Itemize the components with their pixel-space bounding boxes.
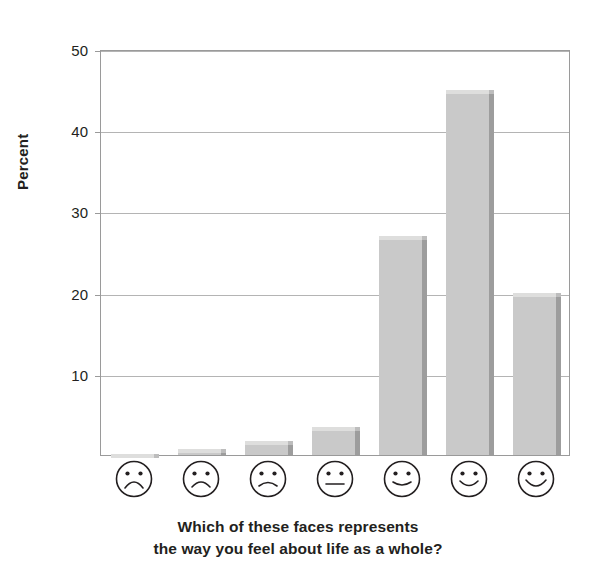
y-axis-tick-20: 20: [48, 286, 88, 301]
bar-slightly-happy-face: [379, 236, 427, 455]
y-axis-tick-labels: 5040302010: [40, 0, 88, 576]
bar-sad-face: [178, 449, 226, 455]
bar-side-face: [422, 236, 427, 455]
caption-line-1: Which of these faces represents: [0, 516, 596, 538]
gridline-30: [101, 213, 569, 214]
bar-top-face: [312, 427, 360, 431]
bar-very-sad-face: [111, 454, 159, 455]
bar-top-face: [245, 441, 293, 445]
bar-bevel: [422, 236, 427, 240]
bar-happy-face: [446, 90, 494, 455]
gridline-50: [101, 51, 569, 52]
bar-side-face: [556, 293, 561, 455]
x-axis-face-icons: [100, 458, 570, 504]
bar-bevel: [556, 293, 561, 297]
bar-side-face: [355, 427, 360, 455]
bar-very-happy-face: [513, 293, 561, 455]
sad-face-icon: [180, 458, 222, 500]
bar-chart-figure: Percent 5040302010 Which of these faces …: [0, 0, 596, 576]
very-happy-face-icon: [515, 458, 557, 500]
bar-bevel: [355, 427, 360, 431]
y-tick-mark-30: [95, 213, 101, 214]
neutral-face-icon: [314, 458, 356, 500]
bar-top-face: [178, 449, 226, 453]
y-axis-tick-40: 40: [48, 124, 88, 139]
y-axis-tick-10: 10: [48, 367, 88, 382]
y-axis-title: Percent: [14, 70, 31, 190]
chart-caption: Which of these faces represents the way …: [0, 516, 596, 561]
plot-area: [100, 50, 570, 456]
bar-top-face: [513, 293, 561, 297]
slightly-sad-face-icon: [247, 458, 289, 500]
y-tick-mark-40: [95, 132, 101, 133]
y-axis-tick-50: 50: [48, 43, 88, 58]
happy-face-icon: [448, 458, 490, 500]
bar-side-face: [489, 90, 494, 455]
gridline-10: [101, 376, 569, 377]
bar-bevel: [489, 90, 494, 94]
gridline-40: [101, 132, 569, 133]
very-sad-face-icon: [113, 458, 155, 500]
bar-top-face: [379, 236, 427, 240]
bar-top-face: [446, 90, 494, 94]
y-tick-mark-10: [95, 376, 101, 377]
gridline-20: [101, 295, 569, 296]
y-axis-tick-30: 30: [48, 205, 88, 220]
y-tick-mark-50: [95, 51, 101, 52]
bar-neutral-face: [312, 427, 360, 455]
caption-line-2: the way you feel about life as a whole?: [0, 538, 596, 560]
bar-bevel: [288, 441, 293, 445]
bar-slightly-sad-face: [245, 441, 293, 455]
bar-bevel: [221, 449, 226, 453]
y-tick-mark-20: [95, 295, 101, 296]
slightly-happy-face-icon: [381, 458, 423, 500]
